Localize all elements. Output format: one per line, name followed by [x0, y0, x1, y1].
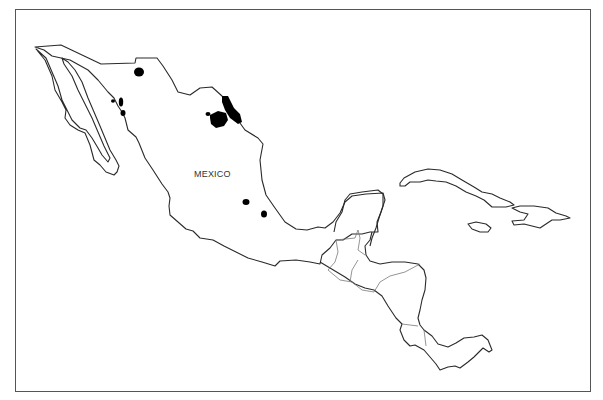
marked-region: [210, 111, 228, 128]
map-canvas: [0, 0, 603, 400]
hispaniola-outline: [512, 206, 570, 228]
marked-region: [134, 68, 144, 77]
marked-region: [111, 99, 115, 103]
cuba-outline: [400, 169, 514, 207]
marked-region: [119, 98, 123, 107]
mexico-outline: [35, 45, 385, 266]
marked-region: [261, 211, 267, 218]
jamaica-outline: [468, 222, 491, 232]
central-america-outline: [320, 232, 492, 370]
yucatan-outline: [334, 190, 383, 246]
marked-region: [121, 110, 126, 116]
mexico-label: MEXICO: [194, 169, 231, 179]
marked-region: [206, 112, 211, 116]
guatemala-border: [328, 230, 426, 346]
marked-region: [243, 199, 250, 205]
baja-california-outline: [36, 49, 119, 175]
